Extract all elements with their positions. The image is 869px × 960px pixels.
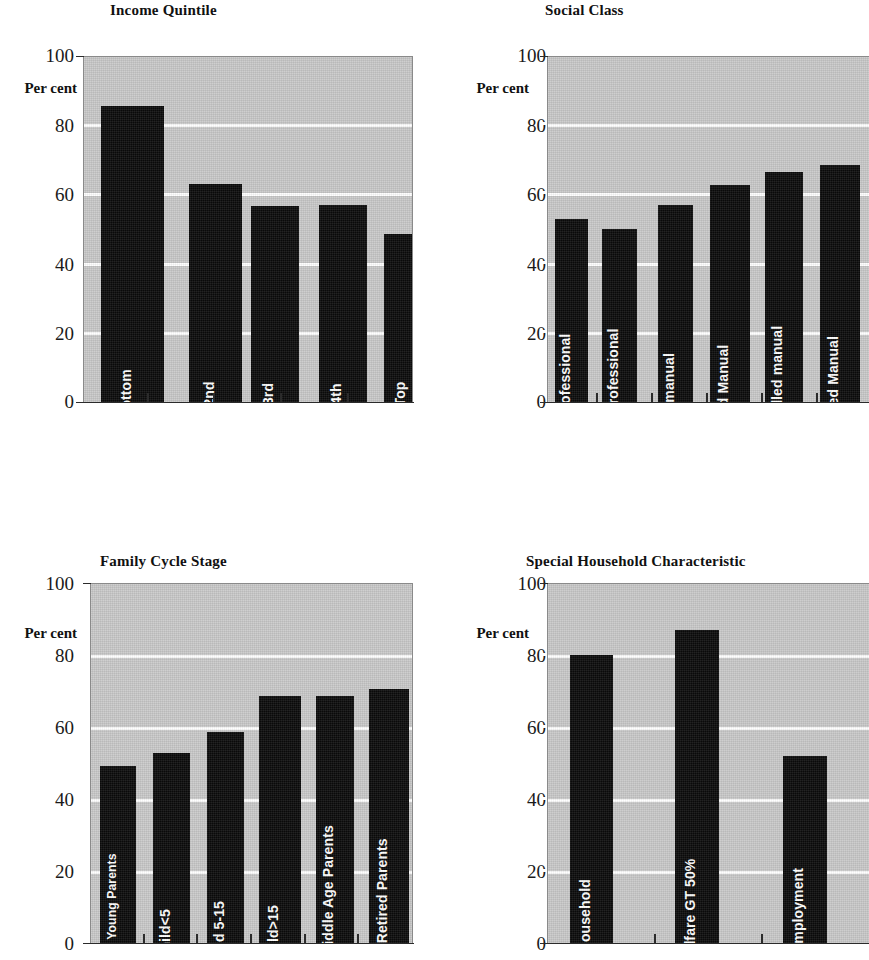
- y-tick-20: [540, 869, 547, 872]
- bar-label: Lower Professional: [606, 329, 620, 402]
- y-tick-label-20: 20: [28, 323, 74, 345]
- bar-label: Semi-skilled manual: [770, 326, 784, 402]
- chart-panel-social-class: Social Class Per cent 100 80 60 40 20 0 …: [430, 0, 869, 440]
- bar-label: Bottom: [119, 369, 133, 402]
- y-tick-label-60: 60: [28, 184, 74, 206]
- y-tick-label-40: 40: [500, 254, 546, 276]
- bar: Child>15: [259, 696, 301, 943]
- y-tick-80: [76, 122, 83, 125]
- y-tick-80: [540, 653, 547, 656]
- bar: Bottom: [101, 106, 164, 402]
- y-axis-title: Per cent: [435, 625, 529, 642]
- bar-label: Non-manual: [662, 353, 676, 402]
- bar: Top: [384, 234, 413, 402]
- y-tick-20: [83, 869, 90, 872]
- gridline-20: [91, 871, 412, 874]
- y-tick-60: [540, 191, 547, 194]
- y-tick-label-80: 80: [500, 115, 546, 137]
- y-tick-60: [76, 191, 83, 194]
- bar: Child<5: [153, 753, 190, 943]
- x-tick: [357, 934, 359, 943]
- x-tick: [651, 393, 653, 402]
- x-tick: [304, 934, 306, 943]
- x-tick: [213, 393, 215, 402]
- chart-panel-income-quintile: Income Quintile Per cent 100 80 60 40 20…: [0, 0, 440, 440]
- bar-label: High Professional: [558, 334, 572, 402]
- y-tick-40: [540, 797, 547, 800]
- y-tick-label-20: 20: [28, 861, 74, 883]
- y-tick-80: [83, 653, 90, 656]
- x-tick: [816, 393, 818, 402]
- x-axis: [76, 402, 414, 403]
- bar-label: Social Welfare GT 50%: [683, 859, 697, 943]
- bar: 4th: [319, 205, 367, 402]
- x-tick: [761, 934, 763, 943]
- x-tick: [147, 393, 149, 402]
- bar-label: Child<5: [158, 909, 172, 943]
- y-tick-40: [540, 261, 547, 264]
- bar: No Children, Retired Parents: [369, 689, 409, 943]
- y-tick-60: [83, 725, 90, 728]
- bar: Unskilled Manual: [820, 165, 860, 402]
- gridline-60: [91, 727, 412, 730]
- gridline-40: [91, 799, 412, 802]
- x-tick: [706, 393, 708, 402]
- bar-label: Unskilled Manual: [826, 336, 840, 402]
- y-tick-40: [76, 261, 83, 264]
- gridline-80: [91, 655, 412, 658]
- bar: No Children, Young Parents: [100, 766, 136, 943]
- plot-area: Farm Household Social Welfare GT 50% Wif…: [547, 583, 869, 943]
- x-tick: [654, 934, 656, 943]
- plot-area: High Professional Lower Professional Non…: [547, 56, 869, 402]
- bar-label: Wife in employment: [791, 868, 805, 943]
- bar-label: Farm Household: [578, 879, 592, 943]
- x-tick: [280, 393, 282, 402]
- x-tick: [761, 393, 763, 402]
- y-tick-20: [76, 330, 83, 333]
- x-tick: [250, 934, 252, 943]
- y-tick-100: [83, 583, 91, 584]
- x-axis: [540, 402, 869, 403]
- bar: Social Welfare GT 50%: [675, 630, 719, 943]
- y-tick-80: [540, 122, 547, 125]
- plot-area: No Children, Young Parents Child<5 Child…: [90, 583, 413, 943]
- y-tick-label-40: 40: [500, 789, 546, 811]
- bar: Semi-skilled manual: [765, 172, 803, 402]
- y-tick-label-80: 80: [28, 645, 74, 667]
- x-axis: [540, 943, 869, 944]
- y-axis-title: Per cent: [5, 80, 77, 97]
- bar: Child 5-15: [207, 732, 244, 943]
- bar-label: No Children, Middle Age Parents: [321, 825, 335, 943]
- y-tick-100: [540, 583, 548, 584]
- y-tick-label-0: 0: [28, 933, 74, 955]
- bar: Lower Professional: [602, 229, 637, 402]
- y-axis-title: Per cent: [5, 625, 77, 642]
- x-tick: [596, 393, 598, 402]
- y-tick-label-20: 20: [500, 861, 546, 883]
- chart-title: Family Cycle Stage: [100, 553, 227, 570]
- y-tick-100: [76, 56, 84, 57]
- bar: Skilled Manual: [710, 185, 750, 402]
- bar-label: Top: [393, 382, 407, 402]
- chart-title: Social Class: [545, 2, 624, 19]
- y-tick-label-100: 100: [500, 573, 546, 595]
- chart-title: Income Quintile: [110, 2, 217, 19]
- y-tick-label-40: 40: [28, 254, 74, 276]
- bar-label: No Children, Young Parents: [106, 853, 118, 943]
- bar-label: Skilled Manual: [716, 345, 730, 402]
- y-tick-label-80: 80: [500, 645, 546, 667]
- x-tick: [143, 934, 145, 943]
- y-axis-title: Per cent: [435, 80, 529, 97]
- bar: 2nd: [189, 184, 242, 402]
- y-tick-label-0: 0: [28, 391, 74, 413]
- y-tick-label-20: 20: [500, 323, 546, 345]
- bar: Farm Household: [570, 655, 613, 943]
- chart-title: Special Household Characteristic: [526, 553, 746, 570]
- y-tick-label-40: 40: [28, 789, 74, 811]
- bar: No Children, Middle Age Parents: [316, 696, 354, 943]
- gridline-80: [548, 124, 869, 127]
- x-axis: [83, 943, 414, 944]
- y-tick-60: [540, 725, 547, 728]
- x-tick: [347, 393, 349, 402]
- chart-panel-family-cycle-stage: Family Cycle Stage Per cent 100 80 60 40…: [0, 520, 440, 960]
